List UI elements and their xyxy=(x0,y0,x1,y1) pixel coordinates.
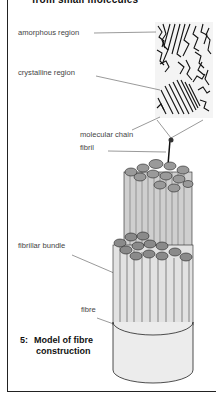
label-fibril: fibril xyxy=(80,143,94,152)
caption-number: 5: xyxy=(20,335,34,346)
fibre-cylinder xyxy=(113,322,193,383)
caption-line-2: construction xyxy=(20,346,93,357)
label-crystalline-region: crystalline region xyxy=(18,68,75,77)
label-amorphous-region: amorphous region xyxy=(18,28,79,37)
caption-line-1: Model of fibre xyxy=(34,335,93,345)
fibrillar-bundle-lower xyxy=(113,232,193,325)
label-fibrillar-bundle: fibrillar bundle xyxy=(18,241,65,250)
label-molecular-chain: molecular chain xyxy=(80,130,133,139)
fibril-strand xyxy=(168,138,174,166)
label-fibre: fibre xyxy=(81,305,96,314)
figure-caption: 5:Model of fibre construction xyxy=(20,335,93,357)
molecular-texture xyxy=(155,22,213,118)
